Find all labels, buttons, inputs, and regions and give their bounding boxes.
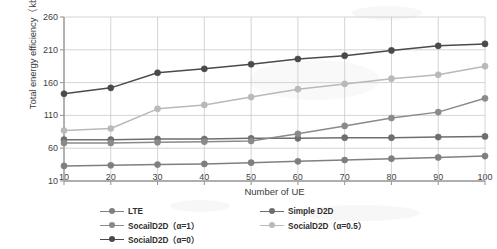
data-point-marker [154,162,160,168]
series-line [64,98,485,143]
legend-swatch-icon [260,207,284,216]
data-point-marker [435,154,441,160]
data-point-marker [295,158,301,164]
data-point-marker [435,43,441,49]
data-point-marker [342,135,348,141]
data-point-marker [388,47,394,53]
y-tick-label: 60 [24,143,58,153]
data-point-marker [248,94,254,100]
data-point-marker [108,125,114,131]
y-tick-label: 210 [24,45,58,55]
legend-item[interactable]: LTE [100,204,260,218]
data-point-marker [342,157,348,163]
series-line [64,156,485,166]
legend-marker-dot [109,208,115,214]
data-point-marker [108,162,114,168]
data-point-marker [435,72,441,78]
legend-label: Simple D2D [288,207,334,216]
data-point-marker [154,70,160,76]
data-point-marker [295,131,301,137]
legend-swatch-icon [260,221,284,230]
y-tick-label: 160 [24,78,58,88]
data-point-marker [108,140,114,146]
data-point-marker [154,139,160,145]
data-point-marker [201,139,207,145]
data-point-marker [108,85,114,91]
legend-swatch-icon [100,207,124,216]
legend-marker-dot [109,236,115,242]
chart-legend: LTESocailD2D（α=1）SocialD2D（α=0）Simple D2… [100,204,440,246]
legend-item[interactable]: SocialD2D（α=0.5） [260,218,440,232]
legend-swatch-icon [100,235,124,244]
data-point-marker [61,91,67,97]
legend-item[interactable]: SocialD2D（α=0） [100,232,260,246]
y-tick-label: 260 [24,12,58,22]
data-point-marker [482,41,488,47]
legend-marker-dot [269,222,275,228]
series-sociald2d-0-5- [61,63,488,133]
axis-lines [60,17,485,185]
data-point-marker [435,109,441,115]
data-point-marker [154,106,160,112]
data-point-marker [388,135,394,141]
data-point-marker [201,66,207,72]
legend-label: LTE [128,207,143,216]
series-lte [61,153,488,169]
data-point-marker [61,127,67,133]
data-point-marker [482,63,488,69]
data-point-marker [61,163,67,169]
data-point-marker [61,140,67,146]
legend-item[interactable]: SocailD2D（α=1） [100,218,260,232]
legend-label: SocialD2D（α=0） [128,233,199,245]
data-point-marker [482,133,488,139]
data-point-marker [482,153,488,159]
data-point-marker [248,61,254,67]
data-point-marker [388,76,394,82]
data-point-marker [342,123,348,129]
legend-label: SocailD2D（α=1） [128,219,199,231]
series-line [64,66,485,130]
data-point-marker [201,102,207,108]
legend-swatch-icon [100,221,124,230]
data-point-marker [295,86,301,92]
y-axis-tick-labels: 2602101601106010 [22,17,58,181]
y-tick-label: 110 [24,110,58,120]
legend-item[interactable]: Simple D2D [260,204,440,218]
legend-label: SocialD2D（α=0.5） [288,219,366,231]
data-point-marker [388,156,394,162]
data-point-marker [342,53,348,59]
data-point-marker [295,56,301,62]
data-point-marker [388,115,394,121]
plot-area [64,17,485,181]
data-point-marker [248,160,254,166]
data-point-marker [201,161,207,167]
plot-canvas [64,17,485,181]
legend-marker-dot [269,208,275,214]
data-point-marker [342,81,348,87]
legend-marker-dot [109,222,115,228]
data-point-marker [248,138,254,144]
data-point-marker [482,95,488,101]
data-point-marker [435,134,441,140]
grid-lines [64,17,485,181]
x-axis-title: Number of UE [64,186,485,197]
series-line [64,44,485,94]
series-sociald2d-0- [61,41,488,97]
